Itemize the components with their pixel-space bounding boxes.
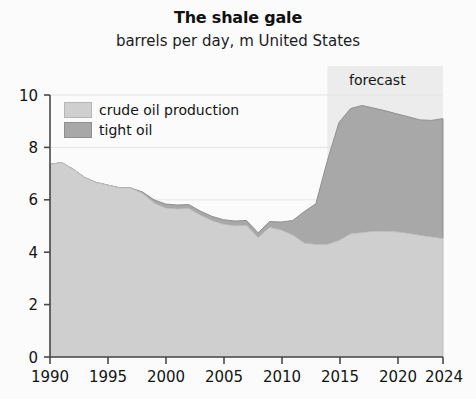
legend-item-tight-oil: tight oil <box>64 121 239 138</box>
x-tick-label: 2010 <box>263 368 301 386</box>
forecast-annotation-label: forecast <box>349 72 406 88</box>
legend-item-crude-oil-production: crude oil production <box>64 101 239 118</box>
x-tick-label: 1995 <box>89 368 127 386</box>
y-axis-ticks <box>44 95 50 357</box>
y-tick-label: 0 <box>28 349 38 367</box>
y-tick-label: 2 <box>28 296 38 314</box>
x-tick-label: 2020 <box>379 368 417 386</box>
y-tick-label: 8 <box>28 139 38 157</box>
legend-label-crude-oil: crude oil production <box>99 103 239 117</box>
x-axis-ticks <box>50 357 443 364</box>
x-axis-labels: 1990 1995 2000 2005 2010 2015 2020 2024 <box>31 368 463 386</box>
chart-container: The shale gale barrels per day, m United… <box>0 0 476 399</box>
y-tick-label: 6 <box>28 191 38 209</box>
legend-swatch-crude-oil <box>64 102 92 118</box>
y-tick-label: 4 <box>28 244 38 262</box>
chart-legend: crude oil production tight oil <box>64 101 239 138</box>
x-tick-label: 2015 <box>321 368 359 386</box>
x-tick-label: 2000 <box>147 368 185 386</box>
legend-label-tight-oil: tight oil <box>99 123 152 137</box>
x-tick-label: 2024 <box>425 368 463 386</box>
x-tick-label: 2005 <box>205 368 243 386</box>
legend-swatch-tight-oil <box>64 122 92 138</box>
y-axis-labels: 10 8 6 4 2 0 <box>19 87 38 367</box>
chart-plot-area: 10 8 6 4 2 0 1990 1995 2000 2005 2010 20… <box>0 0 476 399</box>
y-tick-label: 10 <box>19 87 38 105</box>
x-tick-label: 1990 <box>31 368 69 386</box>
